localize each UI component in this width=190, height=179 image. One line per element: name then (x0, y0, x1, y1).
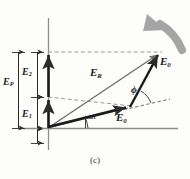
label-E0-lower: E0 (116, 112, 127, 124)
label-E1: E1 (22, 109, 32, 120)
figure-caption: (c) (0, 155, 190, 165)
label-EP: EP (3, 77, 13, 88)
phasor-diagram-canvas (0, 0, 190, 179)
phasor-diagram-figure: E0 ER E0 EP E2 E1 ϕ ωt (c) (0, 0, 190, 179)
label-E2: E2 (22, 67, 32, 78)
label-E0-top: E0 (160, 56, 171, 68)
label-omega-t: ωt (88, 113, 96, 121)
label-phi: ϕ (131, 85, 137, 95)
label-ER: ER (90, 67, 102, 79)
